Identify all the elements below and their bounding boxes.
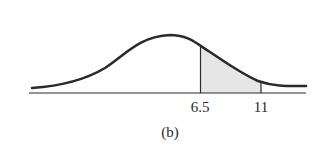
tick-label-11: 11 [254, 99, 268, 115]
normal-curve-diagram: 6.5 11 (b) [0, 0, 318, 148]
figure-caption: (b) [161, 124, 179, 141]
tick-label-6-5: 6.5 [191, 99, 210, 115]
shaded-region [200, 48, 261, 93]
bell-curve [32, 35, 306, 88]
